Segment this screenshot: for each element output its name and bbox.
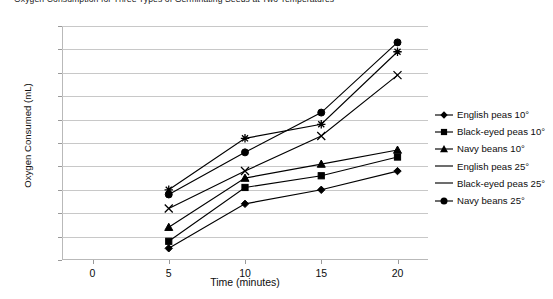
series-0: [165, 167, 401, 252]
marker-triangle: [394, 146, 402, 153]
marker-diamond: [241, 200, 248, 207]
x-tick-mark: [169, 260, 170, 264]
legend-marker-diamond-icon: [434, 108, 454, 122]
series-line: [169, 52, 398, 190]
series-line: [169, 75, 398, 208]
marker-cross: [317, 132, 325, 140]
marker-diamond: [165, 245, 172, 252]
marker-diamond: [318, 186, 325, 193]
marker-asterisk: [317, 120, 325, 128]
marker-square: [318, 173, 324, 179]
chart-legend: English peas 10°Black-eyed peas 10°Navy …: [434, 106, 553, 209]
marker-square: [166, 238, 172, 244]
legend-label: Navy beans 25°: [454, 195, 525, 206]
series-2: [165, 146, 402, 230]
x-tick-mark: [93, 260, 94, 264]
marker-diamond: [440, 111, 447, 118]
marker-triangle: [165, 223, 173, 230]
marker-diamond: [394, 167, 401, 174]
x-tick-mark: [321, 260, 322, 264]
plot-area: 00.050.10.150.20.250.30.350.40.450.5 051…: [62, 26, 428, 260]
legend-marker-triangle-icon: [434, 142, 454, 156]
legend-item[interactable]: English peas 10°: [434, 106, 553, 123]
x-axis-title: Time (minutes): [62, 276, 428, 288]
marker-asterisk: [393, 48, 401, 56]
legend-item[interactable]: English peas 25°: [434, 158, 553, 175]
legend-item[interactable]: Black-eyed peas 25°: [434, 175, 553, 192]
marker-circle: [165, 191, 172, 198]
legend-marker-asterisk-icon: [434, 176, 454, 190]
legend-label: English peas 25°: [454, 161, 529, 172]
series-4: [165, 48, 402, 194]
x-tick-mark: [398, 260, 399, 264]
marker-asterisk: [241, 134, 249, 142]
marker-cross: [165, 205, 173, 213]
marker-square: [394, 154, 400, 160]
marker-circle: [318, 109, 325, 116]
legend-marker-square-icon: [434, 125, 454, 139]
series-layer: [62, 26, 428, 260]
series-line: [169, 171, 398, 248]
legend-item[interactable]: Black-eyed peas 10°: [434, 123, 553, 140]
marker-square: [441, 129, 447, 135]
marker-circle: [394, 39, 401, 46]
y-tick-mark: [58, 260, 62, 261]
y-axis-title: Oxygen Consumed (mL): [22, 56, 33, 216]
series-5: [165, 39, 401, 198]
chart-container: Oxygen Consumption for Three Types of Ge…: [0, 0, 553, 299]
x-tick-mark: [245, 260, 246, 264]
legend-label: English peas 10°: [454, 109, 529, 120]
legend-label: Navy beans 10°: [454, 143, 525, 154]
legend-marker-circle-icon: [434, 194, 454, 208]
legend-item[interactable]: Navy beans 25°: [434, 192, 553, 209]
legend-label: Black-eyed peas 25°: [454, 178, 545, 189]
legend-marker-cross-icon: [434, 159, 454, 173]
chart-title: Oxygen Consumption for Three Types of Ge…: [14, 0, 334, 4]
marker-circle: [242, 149, 249, 156]
series-line: [169, 150, 398, 227]
legend-item[interactable]: Navy beans 10°: [434, 140, 553, 157]
series-line: [169, 42, 398, 194]
legend-label: Black-eyed peas 10°: [454, 126, 545, 137]
marker-square: [242, 184, 248, 190]
marker-circle: [441, 197, 448, 204]
series-3: [165, 71, 402, 212]
marker-cross: [394, 71, 402, 79]
